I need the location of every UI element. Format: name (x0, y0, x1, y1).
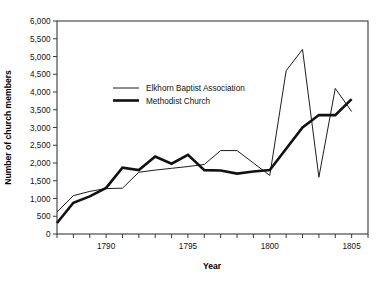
y-tick-label: 5,500 (30, 35, 51, 44)
x-axis-tick-marks (57, 234, 368, 238)
series-line-1 (57, 49, 352, 212)
y-tick-label: 0 (46, 230, 51, 239)
x-tick-label: 1790 (97, 242, 116, 251)
chart-container: 05001,0001,5002,0002,5003,0003,5004,0004… (0, 0, 386, 283)
y-tick-label: 4,000 (30, 88, 51, 97)
x-tick-label: 1800 (261, 242, 280, 251)
y-tick-label: 2,000 (30, 159, 51, 168)
y-axis-tick-marks (53, 21, 57, 234)
line-chart-figure: 05001,0001,5002,0002,5003,0003,5004,0004… (0, 0, 386, 283)
plot-area-frame (57, 21, 368, 234)
y-tick-label: 5,000 (30, 53, 51, 62)
legend-label-2: Methodist Church (146, 97, 211, 106)
series-lines (57, 49, 352, 223)
y-tick-label: 3,500 (30, 106, 51, 115)
y-axis-title: Number of church members (3, 70, 13, 185)
x-axis-tick-labels: 1790179518001805 (97, 242, 361, 251)
y-tick-label: 500 (37, 212, 51, 221)
y-tick-label: 3,000 (30, 124, 51, 133)
legend-label-1: Elkhorn Baptist Association (146, 84, 245, 93)
y-tick-label: 1,000 (30, 195, 51, 204)
y-tick-label: 4,500 (30, 70, 51, 79)
x-tick-label: 1805 (343, 242, 362, 251)
y-tick-label: 1,500 (30, 177, 51, 186)
x-axis-title: Year (203, 261, 222, 271)
y-tick-label: 6,000 (30, 17, 51, 26)
x-tick-label: 1795 (179, 242, 198, 251)
y-axis-tick-labels: 05001,0001,5002,0002,5003,0003,5004,0004… (30, 17, 51, 239)
series-line-2 (57, 99, 352, 223)
chart-legend: Elkhorn Baptist AssociationMethodist Chu… (113, 84, 245, 106)
y-tick-label: 2,500 (30, 141, 51, 150)
